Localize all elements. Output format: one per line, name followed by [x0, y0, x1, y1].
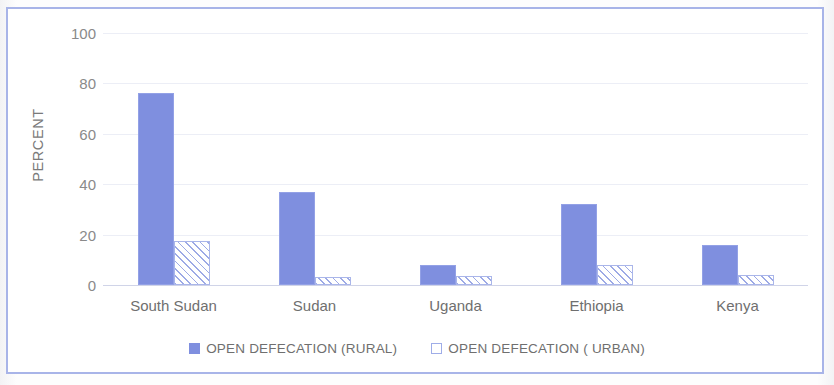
legend-label: OPEN DEFECATION ( URBAN): [448, 341, 645, 356]
bar-south-sudan-rural: [138, 93, 174, 285]
chart-legend: OPEN DEFECATION (RURAL)OPEN DEFECATION (…: [8, 341, 826, 356]
y-axis-tick-80: 80: [56, 76, 96, 91]
legend-label: OPEN DEFECATION (RURAL): [206, 341, 397, 356]
x-axis-tick-sudan: Sudan: [244, 297, 385, 314]
bar-sudan-urban: [315, 277, 351, 285]
bar-south-sudan-urban: [174, 241, 210, 285]
bar-uganda-rural: [420, 265, 456, 285]
x-axis-tick-labels: South SudanSudanUgandaEthiopiaKenya: [103, 297, 808, 321]
chart-plot-area: PERCENT 100806040200 South SudanSudanUga…: [8, 9, 826, 376]
chart-frame: PERCENT 100806040200 South SudanSudanUga…: [6, 7, 824, 374]
bar-sudan-rural: [279, 192, 315, 285]
legend-item-rural[interactable]: OPEN DEFECATION (RURAL): [189, 341, 397, 356]
legend-hollow-square-icon: [431, 343, 442, 354]
y-axis-tick-100: 100: [56, 26, 96, 41]
legend-item-urban[interactable]: OPEN DEFECATION ( URBAN): [431, 341, 645, 356]
x-axis-tick-kenya: Kenya: [667, 297, 808, 314]
y-axis-tick-60: 60: [56, 127, 96, 142]
bar-ethiopia-urban: [597, 265, 633, 285]
y-axis-tick-20: 20: [56, 228, 96, 243]
y-axis-title: PERCENT: [30, 95, 46, 195]
y-axis-tick-0: 0: [56, 278, 96, 293]
bar-ethiopia-rural: [561, 204, 597, 285]
bar-uganda-urban: [456, 276, 492, 285]
scanned-page: PERCENT 100806040200 South SudanSudanUga…: [0, 0, 834, 385]
legend-solid-square-icon: [189, 343, 200, 354]
x-axis-tick-uganda: Uganda: [385, 297, 526, 314]
x-axis-tick-ethiopia: Ethiopia: [526, 297, 667, 314]
bar-kenya-rural: [702, 245, 738, 285]
y-axis-tick-40: 40: [56, 177, 96, 192]
y-axis-tick-labels: 100806040200: [52, 9, 96, 376]
x-axis-tick-south-sudan: South Sudan: [103, 297, 244, 314]
bar-kenya-urban: [738, 275, 774, 285]
